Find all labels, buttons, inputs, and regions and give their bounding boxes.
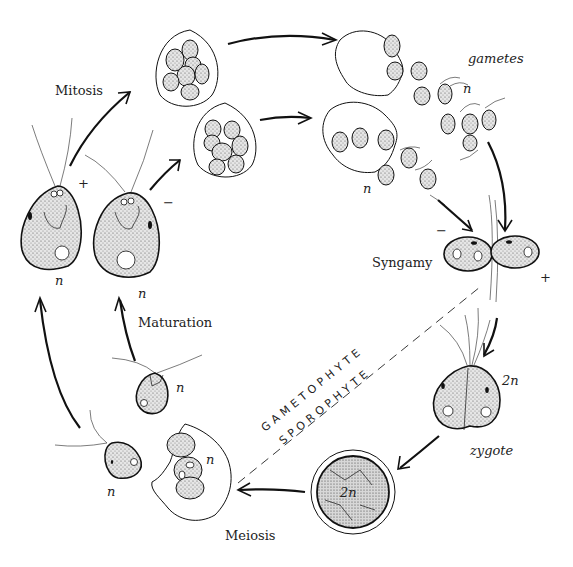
parent-cell-minus: − n [85, 130, 174, 301]
zygospore: 2n [311, 450, 395, 534]
arrow-to-gamete-release-top [228, 36, 335, 44]
arrow-to-zygote [484, 318, 497, 355]
syngamy-cells: Syngamy − + [372, 195, 551, 302]
ploidy-label-plus-cell: n [55, 273, 63, 288]
sporangium-minus [194, 103, 256, 177]
ploidy-label-zygospore: 2n [339, 485, 357, 500]
return-arrow-to-parent [40, 300, 80, 428]
gametes-label: gametes [468, 51, 524, 66]
ploidy-label-zoospore-lower: n [107, 484, 115, 499]
arrow-to-meiosis [240, 489, 305, 492]
zygote-cell: 2n zygote [433, 308, 518, 458]
mating-type-plus-label: + [78, 176, 89, 191]
ploidy-label-zygote: 2n [501, 373, 519, 388]
mitosis-arrow-plus [70, 92, 130, 166]
syngamy-minus-label: − [436, 223, 447, 238]
arrow-to-zygospore [400, 436, 439, 468]
ploidy-label-gametes-bottom: n [363, 181, 371, 196]
zoospore-lower: n [55, 410, 141, 499]
arrow-to-gamete-release-bottom [260, 117, 310, 120]
mitosis-label: Mitosis [55, 83, 103, 98]
syngamy-plus-label: + [540, 270, 551, 285]
ploidy-label-minus-cell: n [138, 286, 146, 301]
life-cycle-diagram: + n − n Mitosis [0, 0, 573, 567]
mating-type-minus-label: − [163, 195, 174, 210]
ploidy-label-meiosis: n [206, 452, 214, 467]
syngamy-label: Syngamy [372, 255, 433, 270]
zygote-label: zygote [469, 443, 514, 458]
ploidy-label-zoospore-upper: n [176, 380, 184, 395]
sporangium-plus [156, 30, 218, 106]
mitosis-arrow-minus [150, 160, 180, 190]
meiosis-cell: n Meiosis [152, 424, 276, 543]
meiosis-label: Meiosis [225, 528, 276, 543]
zoospore-upper: n [112, 355, 202, 414]
parent-cell-plus: + n [21, 118, 89, 288]
maturation-label: Maturation [138, 315, 213, 330]
maturation-arrow [120, 300, 135, 361]
gamete-release-bottom: n [323, 102, 445, 205]
ploidy-label-gametes-top: n [463, 81, 471, 96]
